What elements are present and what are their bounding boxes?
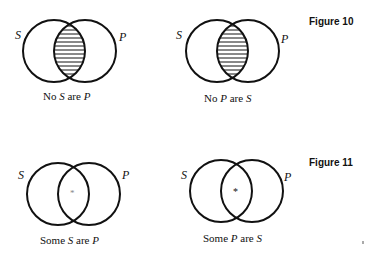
asterisk-mark-icon: * [70,188,75,198]
caption-no-s-are-p: No S are P [43,90,90,102]
caption-no-p-are-s: No P are S [204,92,251,104]
venn-diagrams-svg [0,0,377,262]
set-label-s: S [176,28,182,43]
set-label-p: P [281,32,288,47]
venn-no-s-are-p [23,20,116,82]
asterisk-mark-icon: * [233,186,238,197]
set-label-p: P [122,168,129,183]
set-label-s: S [18,168,24,183]
set-label-p: P [284,170,291,185]
figure-10-label: Figure 10 [309,16,353,27]
set-label-s: S [15,28,21,43]
venn-diagram-page: * * Figure 10 Figure 11 S P S P S P S P … [0,0,377,262]
venn-no-p-are-s [186,20,279,82]
set-label-s: S [181,168,187,183]
figure-11-label: Figure 11 [309,157,353,168]
scan-speck [362,241,364,244]
set-label-p: P [119,30,126,45]
caption-some-p-are-s: Some P are S [203,232,262,244]
caption-some-s-are-p: Some S are P [40,234,99,246]
